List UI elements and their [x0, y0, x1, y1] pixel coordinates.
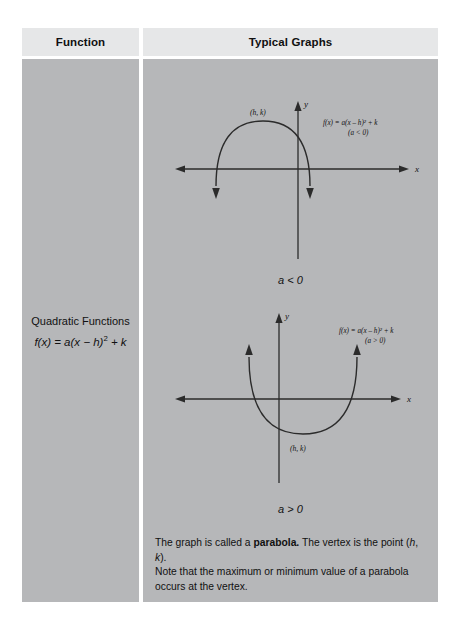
equation-label-up-line2: (a > 0) — [365, 337, 386, 345]
x-axis-label-down: x — [414, 164, 419, 174]
header-label-typical-graphs: Typical Graphs — [249, 36, 333, 48]
equation-label-down-line2: (a < 0) — [348, 129, 369, 137]
equation-label-down-line1: f(x) = a(x – h)² + k — [323, 119, 378, 127]
header-label-function: Function — [56, 36, 105, 48]
function-family-name: Quadratic Functions — [22, 313, 139, 330]
note-parabola-vertex: The graph is called a parabola. The vert… — [155, 536, 427, 566]
x-axis-up — [175, 395, 401, 402]
x-axis-label-up: x — [406, 394, 411, 404]
y-axis-label-down: y — [303, 99, 308, 109]
table-header-row: Function Typical Graphs — [22, 28, 438, 56]
graph-down-svg: y x (h, k) f(x) = a(x – h)² + k (a < 0) — [143, 91, 438, 266]
function-definition: Quadratic Functions f(x) = a(x − h)2 + k — [22, 313, 139, 352]
note1-bold-parabola: parabola. — [253, 537, 299, 548]
equation-label-up-line1: f(x) = a(x – h)² + k — [339, 327, 394, 335]
parabola-curve-up — [245, 344, 361, 434]
vertex-label-up: (h, k) — [290, 444, 306, 453]
note-max-min-value: Note that the maximum or minimum value o… — [155, 565, 427, 595]
y-axis-label-up: y — [284, 311, 289, 321]
body-cell-typical-graphs: y x (h, k) f(x) = a(x – h)² + k (a < 0) — [143, 59, 438, 602]
note1-part1: The graph is called a — [155, 537, 253, 548]
graph-up-svg: y x (h, k) f(x) = a(x – h)² + k (a > 0) — [143, 299, 438, 489]
graph-parabola-opens-down: y x (h, k) f(x) = a(x – h)² + k (a < 0) — [143, 91, 438, 266]
case-label-a-negative: a < 0 — [143, 274, 438, 286]
x-axis-down — [175, 165, 409, 172]
table-body-row: Quadratic Functions f(x) = a(x − h)2 + k — [22, 59, 438, 602]
vertex-label-down: (h, k) — [250, 108, 266, 117]
header-cell-typical-graphs: Typical Graphs — [143, 28, 438, 56]
function-formula-suffix: + k — [108, 336, 127, 348]
case-label-a-positive: a > 0 — [143, 503, 438, 515]
function-formula: f(x) = a(x − h)2 + k — [22, 333, 139, 352]
y-axis-up — [275, 313, 282, 483]
note1-part2: The vertex is the point ( — [299, 537, 409, 548]
note1-part4: ). — [160, 552, 166, 563]
header-cell-function: Function — [22, 28, 139, 56]
body-cell-function: Quadratic Functions f(x) = a(x − h)2 + k — [22, 59, 139, 602]
note1-part3: , — [415, 537, 418, 548]
y-axis-down — [294, 101, 301, 259]
reference-table: Function Typical Graphs Quadratic Functi… — [22, 28, 438, 602]
function-formula-prefix: f(x) = a(x − h) — [34, 336, 103, 348]
graph-parabola-opens-up: y x (h, k) f(x) = a(x – h)² + k (a > 0) — [143, 299, 438, 489]
